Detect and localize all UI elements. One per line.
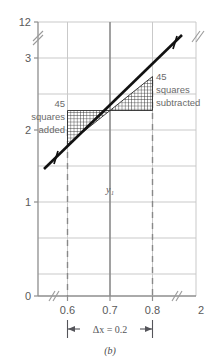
figure-container: 12 3 2 1 0 0.6 0.7 0.8 2 <box>0 0 221 361</box>
y-tick-label-2: 2 <box>25 124 31 136</box>
subtracted-label-line2: squares <box>156 84 190 95</box>
chart-svg: 12 3 2 1 0 0.6 0.7 0.8 2 <box>0 0 221 361</box>
subtracted-label-line1: 45 <box>156 71 167 82</box>
subtracted-label-line3: subtracted <box>156 97 200 108</box>
y1-axis-label: y₁ <box>105 184 114 195</box>
figure-caption: (b) <box>104 345 116 357</box>
delta-x-label: Δx = 0.2 <box>93 324 128 335</box>
added-label-line1: 45 <box>54 98 65 109</box>
y-tick-label-12: 12 <box>19 16 31 28</box>
x-tick-label-07: 0.7 <box>102 304 117 316</box>
x-axis-end-label: 2 <box>198 304 204 316</box>
x-tick-label-06: 0.6 <box>60 304 75 316</box>
y-tick-label-0: 0 <box>25 290 31 302</box>
added-label-line3: added <box>39 124 65 135</box>
y-tick-label-1: 1 <box>25 196 31 208</box>
x-tick-label-08: 0.8 <box>145 304 160 316</box>
added-label-line2: squares <box>31 111 65 122</box>
y-tick-label-3: 3 <box>25 52 31 64</box>
